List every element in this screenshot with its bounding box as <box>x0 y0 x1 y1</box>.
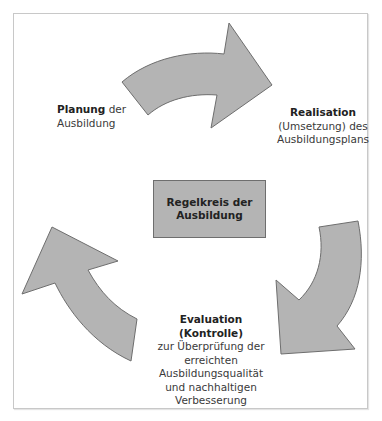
center-line2: Ausbildung <box>176 209 243 221</box>
center-line1: Regelkreis der <box>166 196 252 208</box>
arrow-down-icon <box>276 221 361 354</box>
evaluation-line7: Verbesserung <box>175 394 247 406</box>
planung-line2: Ausbildung <box>57 117 115 129</box>
evaluation-bold2: (Kontrolle) <box>179 327 243 339</box>
evaluation-line3: zur Überprüfung der <box>157 340 264 352</box>
planung-rest: der <box>105 103 126 115</box>
realisation-line3: Ausbildungsplans <box>277 133 369 145</box>
realisation-bold: Realisation <box>290 106 356 118</box>
arrow-right-icon <box>122 23 272 128</box>
label-evaluation: Evaluation (Kontrolle) zur Überprüfung d… <box>140 313 282 408</box>
arrow-up-icon <box>22 227 137 361</box>
label-planung: Planung der Ausbildung <box>57 103 126 130</box>
realisation-line2: (Umsetzung) des <box>278 120 368 132</box>
evaluation-line5: Ausbildungsqualität <box>159 367 263 379</box>
center-box-regelkreis: Regelkreis der Ausbildung <box>153 180 266 238</box>
evaluation-line4: erreichten <box>184 354 238 366</box>
evaluation-bold1: Evaluation <box>180 313 243 325</box>
evaluation-line6: und nachhaltigen <box>165 381 257 393</box>
label-realisation: Realisation (Umsetzung) des Ausbildungsp… <box>277 106 369 147</box>
planung-bold: Planung <box>57 103 105 115</box>
